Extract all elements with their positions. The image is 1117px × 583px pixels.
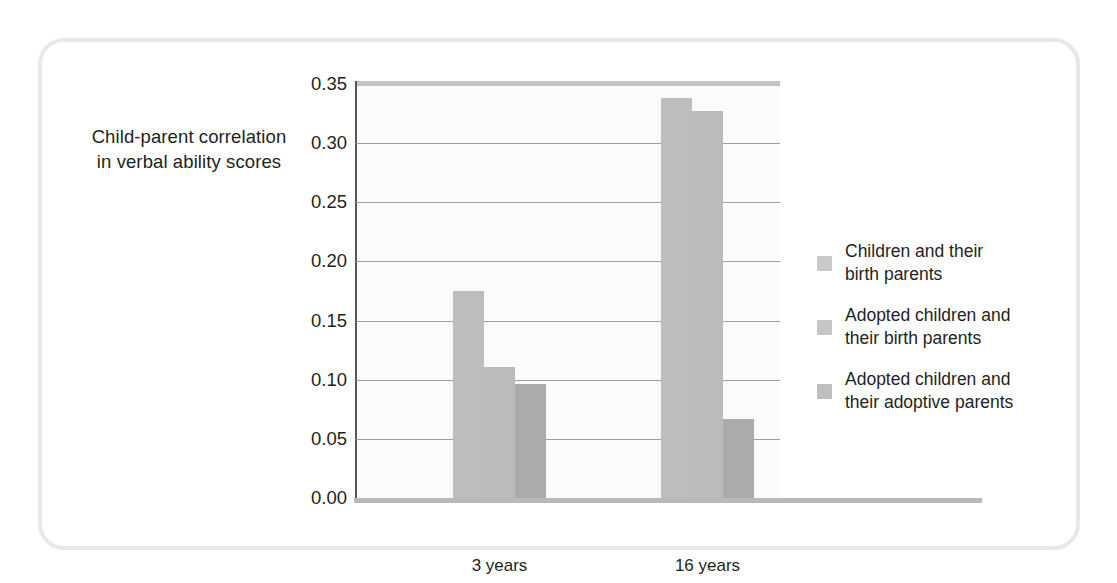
legend-label-line2: their adoptive parents — [845, 391, 1013, 414]
legend-label: Adopted children andtheir adoptive paren… — [845, 368, 1013, 414]
legend-swatch-icon — [817, 256, 832, 271]
plot-top-rule — [356, 81, 780, 86]
bar — [661, 98, 692, 498]
y-axis-tick-label: 0.15 — [311, 310, 347, 332]
x-axis-baseline — [354, 498, 982, 503]
legend-swatch-icon — [817, 384, 832, 399]
legend-item: Children and theirbirth parents — [817, 240, 1067, 286]
y-axis-tick-label: 0.25 — [311, 191, 347, 213]
legend-label: Children and theirbirth parents — [845, 240, 983, 286]
y-axis-title-line1: Child-parent correlation — [92, 126, 287, 147]
legend-label-line1: Children and their — [845, 241, 983, 261]
legend: Children and theirbirth parentsAdopted c… — [817, 240, 1067, 432]
legend-label-line1: Adopted children and — [845, 369, 1010, 389]
bar — [515, 384, 546, 498]
y-axis-tick-label: 0.35 — [311, 73, 347, 95]
legend-label: Adopted children andtheir birth parents — [845, 304, 1010, 350]
legend-item: Adopted children andtheir birth parents — [817, 304, 1067, 350]
y-axis-tick-label: 0.20 — [311, 250, 347, 272]
y-axis-title-line2: in verbal ability scores — [64, 149, 314, 174]
legend-label-line1: Adopted children and — [845, 305, 1010, 325]
plot-area: 0.000.050.100.150.200.250.300.35 3 years… — [356, 84, 780, 498]
figure-frame: Child-parent correlation in verbal abili… — [38, 38, 1080, 550]
y-axis-title: Child-parent correlation in verbal abili… — [64, 124, 314, 174]
x-axis-category-label: 3 years — [472, 556, 528, 576]
bar — [484, 367, 515, 498]
legend-label-line2: birth parents — [845, 263, 983, 286]
y-axis-tick-label: 0.30 — [311, 132, 347, 154]
bar — [453, 291, 484, 498]
legend-label-line2: their birth parents — [845, 327, 1010, 350]
x-axis-category-label: 16 years — [675, 556, 740, 576]
y-axis-tick-label: 0.10 — [311, 369, 347, 391]
y-axis-tick-label: 0.05 — [311, 428, 347, 450]
y-axis-tick-label: 0.00 — [311, 487, 347, 509]
bar — [692, 111, 723, 498]
legend-item: Adopted children andtheir adoptive paren… — [817, 368, 1067, 414]
legend-swatch-icon — [817, 320, 832, 335]
bar — [723, 419, 754, 498]
